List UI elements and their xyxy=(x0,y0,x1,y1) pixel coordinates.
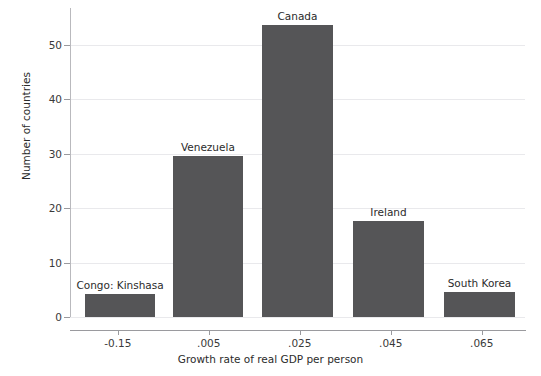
gridline xyxy=(70,317,525,318)
bar-annotation-label: Venezuela xyxy=(181,141,235,153)
x-axis-title: Growth rate of real GDP per person xyxy=(0,353,541,365)
bar xyxy=(85,294,156,317)
bar xyxy=(262,25,333,317)
y-tick-label: 30 xyxy=(36,148,62,160)
y-tick-label: 50 xyxy=(36,39,62,51)
histogram-figure: 01020304050 -0.15.005.025.045.065 Congo:… xyxy=(0,0,541,376)
x-tick-label: .045 xyxy=(379,337,402,349)
x-tick-mark xyxy=(300,330,301,335)
y-tick-mark xyxy=(64,317,70,318)
bar-annotation-label: Ireland xyxy=(370,206,406,218)
x-tick-label: .065 xyxy=(470,337,493,349)
x-tick-mark xyxy=(482,330,483,335)
x-tick-label: -0.15 xyxy=(104,337,131,349)
clipped-header-text xyxy=(8,0,528,5)
y-tick-label: 0 xyxy=(36,311,62,323)
bar xyxy=(353,221,424,317)
bar-annotation-label: Canada xyxy=(278,10,318,22)
bar-annotation-label: South Korea xyxy=(448,277,512,289)
bar-annotation-label: Congo: Kinshasa xyxy=(76,279,163,291)
y-axis-title: Number of countries xyxy=(20,26,32,226)
x-tick-mark xyxy=(391,330,392,335)
bar xyxy=(173,156,244,317)
x-tick-mark xyxy=(118,330,119,335)
y-tick-label: 40 xyxy=(36,93,62,105)
bar xyxy=(444,292,515,317)
y-tick-label: 20 xyxy=(36,202,62,214)
y-tick-label: 10 xyxy=(36,257,62,269)
plot-area xyxy=(70,8,525,317)
x-tick-label: .025 xyxy=(288,337,311,349)
x-axis-line xyxy=(70,330,526,331)
x-tick-mark xyxy=(209,330,210,335)
x-tick-label: .005 xyxy=(197,337,220,349)
